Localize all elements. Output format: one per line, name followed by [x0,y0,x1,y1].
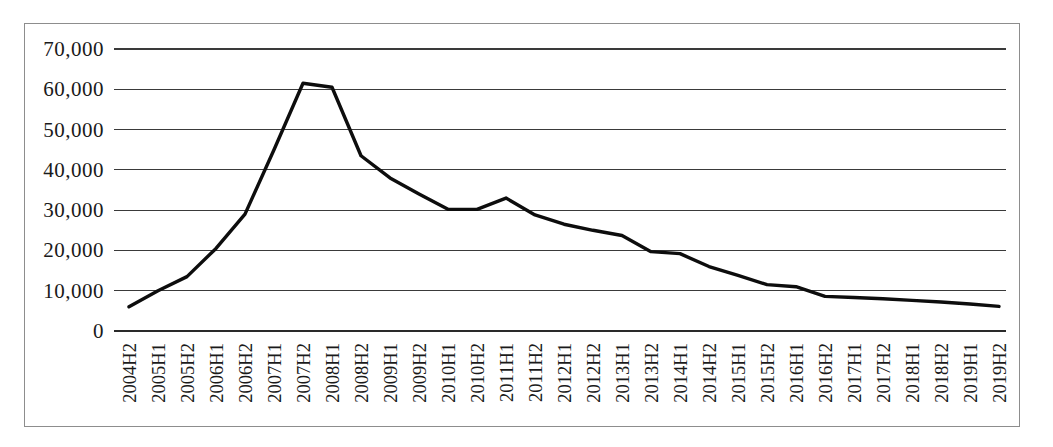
y-axis-tick-label: 40,000 [43,158,104,182]
x-axis-tick-label: 2009H2 [410,343,430,403]
x-axis-tick-label: 2005H1 [149,343,169,403]
x-axis-tick-label: 2006H2 [236,343,256,403]
x-axis-tick-label: 2014H2 [700,343,720,403]
x-axis-tick-label: 2017H2 [874,343,894,403]
x-axis-tick-label: 2011H1 [497,343,517,402]
x-axis-tick-label: 2016H2 [816,343,836,403]
x-axis-tick-label: 2019H2 [990,343,1010,403]
x-axis-labels-group: 2004H22005H12005H22006H12006H22007H12007… [120,343,1010,403]
chart-frame: 70,00060,00050,00040,00030,00020,00010,0… [24,23,1020,427]
y-axis-tick-label: 30,000 [43,198,104,222]
y-axis-tick-label: 20,000 [43,238,104,262]
x-axis-tick-label: 2007H2 [294,343,314,403]
data-series-group [129,83,999,307]
line-chart: 70,00060,00050,00040,00030,00020,00010,0… [25,24,1019,426]
x-axis-tick-label: 2004H2 [120,343,140,403]
x-axis-tick-label: 2008H1 [323,343,343,403]
gridlines-group [114,49,1006,331]
x-axis-tick-label: 2009H1 [381,343,401,403]
x-axis-tick-label: 2018H1 [903,343,923,403]
x-axis-tick-label: 2008H2 [352,343,372,403]
x-axis-tick-label: 2005H2 [178,343,198,403]
x-axis-tick-label: 2010H2 [468,343,488,403]
x-axis-tick-label: 2019H1 [961,343,981,403]
x-axis-tick-label: 2018H2 [932,343,952,403]
y-axis-tick-label: 50,000 [43,118,104,142]
x-axis-tick-label: 2017H1 [845,343,865,403]
y-axis-tick-label: 0 [93,319,104,343]
x-axis-tick-label: 2016H1 [787,343,807,403]
x-axis-tick-label: 2013H1 [613,343,633,403]
y-axis-tick-label: 70,000 [43,37,104,61]
y-axis-tick-label: 10,000 [43,279,104,303]
x-axis-tick-label: 2011H2 [526,343,546,402]
x-axis-tick-label: 2014H1 [671,343,691,403]
x-axis-tick-label: 2012H1 [555,343,575,403]
data-line-series-1 [129,83,999,307]
y-axis-labels-group: 70,00060,00050,00040,00030,00020,00010,0… [43,37,104,343]
x-axis-tick-label: 2013H2 [642,343,662,403]
x-axis-tick-label: 2015H1 [729,343,749,403]
x-axis-tick-label: 2015H2 [758,343,778,403]
y-axis-tick-label: 60,000 [43,77,104,101]
x-axis-tick-label: 2012H2 [584,343,604,403]
x-axis-tick-label: 2010H1 [439,343,459,403]
x-axis-tick-label: 2006H1 [207,343,227,403]
chart-figure: 70,00060,00050,00040,00030,00020,00010,0… [0,0,1053,447]
x-axis-tick-label: 2007H1 [265,343,285,403]
